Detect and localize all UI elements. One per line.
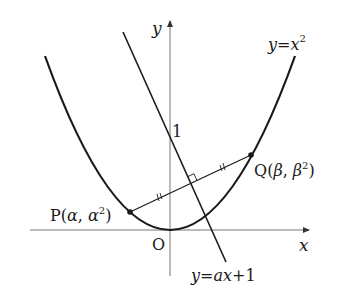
- point-p-label: P(α, α2): [50, 205, 111, 225]
- diagram-canvas: y x O 1 y=x2 y=ax+1 P(α, α2) Q(β, β2): [0, 0, 341, 305]
- parabola-equation-label: y=x2: [267, 33, 306, 54]
- y-axis-label: y: [151, 18, 162, 38]
- x-axis-label: x: [299, 235, 309, 255]
- line-equation-label: y=ax+1: [190, 266, 256, 285]
- y-intercept-label: 1: [172, 122, 182, 141]
- segment-pq: [130, 155, 251, 212]
- equal-marks-pm: [157, 193, 162, 201]
- point-p: [127, 209, 133, 215]
- point-q-label: Q(β, β2): [254, 160, 315, 180]
- line-y-ax-plus-1: [123, 32, 226, 262]
- origin-label: O: [152, 235, 165, 254]
- point-q: [248, 152, 254, 158]
